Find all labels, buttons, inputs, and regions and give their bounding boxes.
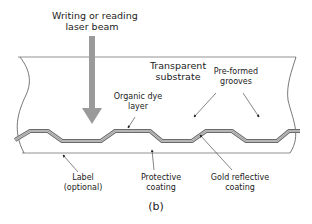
right-break-curve <box>288 57 296 153</box>
figure-caption: (b) <box>136 200 176 213</box>
leader-grooves-right <box>243 93 259 117</box>
laser-beam-arrow-icon <box>82 36 102 124</box>
label-laser-beam: Writing or reading laser beam <box>52 10 132 32</box>
leader-organic-dye <box>128 117 135 128</box>
label-protective-coating: Protective coating <box>136 173 186 193</box>
label-label-optional: Label (optional) <box>58 173 108 193</box>
leader-label <box>63 155 78 172</box>
leader-grooves-left <box>194 93 216 117</box>
label-gold-reflective-coating: Gold reflective coating <box>200 173 280 193</box>
label-organic-dye-layer: Organic dye layer <box>110 92 166 112</box>
label-pre-formed-grooves: Pre-formed grooves <box>208 67 264 87</box>
grooved-layer-stack <box>15 131 300 141</box>
label-transparent-substrate: Transparent substrate <box>146 60 210 82</box>
leader-gold <box>200 135 232 170</box>
